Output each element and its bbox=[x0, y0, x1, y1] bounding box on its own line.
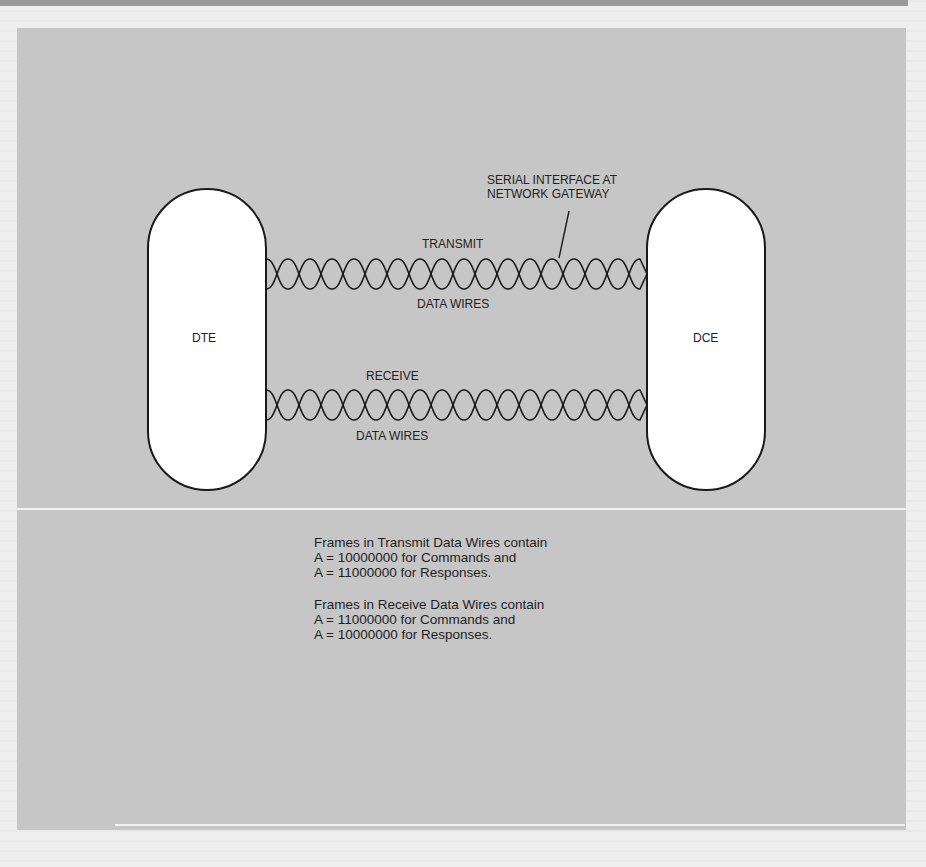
callout-line-2: NETWORK GATEWAY bbox=[487, 187, 609, 201]
receive-note-line-1: Frames in Receive Data Wires contain bbox=[314, 597, 547, 612]
receive-twisted-pair bbox=[266, 390, 647, 420]
transmit-note-line-1: Frames in Transmit Data Wires contain bbox=[314, 535, 547, 550]
dce-label: DCE bbox=[693, 331, 718, 345]
transmit-note-line-3: A = 11000000 for Responses. bbox=[314, 565, 547, 580]
callout-line-1: SERIAL INTERFACE AT bbox=[487, 173, 617, 187]
dte-label: DTE bbox=[192, 331, 216, 345]
interface-callout-leader bbox=[559, 211, 569, 258]
transmit-note-line-2: A = 10000000 for Commands and bbox=[314, 550, 547, 565]
transmit-twisted-pair bbox=[266, 259, 647, 289]
receive-note: Frames in Receive Data Wires contain A =… bbox=[314, 597, 547, 642]
transmit-data-wires-label: DATA WIRES bbox=[417, 297, 489, 311]
receive-label: RECEIVE bbox=[366, 369, 419, 383]
transmit-label: TRANSMIT bbox=[422, 237, 483, 251]
receive-data-wires-label: DATA WIRES bbox=[356, 429, 428, 443]
receive-note-line-3: A = 10000000 for Responses. bbox=[314, 627, 547, 642]
address-notes: Frames in Transmit Data Wires contain A … bbox=[314, 535, 547, 659]
transmit-note: Frames in Transmit Data Wires contain A … bbox=[314, 535, 547, 580]
diagram-canvas bbox=[0, 0, 926, 867]
receive-note-line-2: A = 11000000 for Commands and bbox=[314, 612, 547, 627]
